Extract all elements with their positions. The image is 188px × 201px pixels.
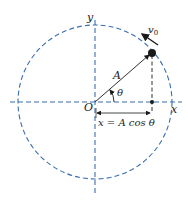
y-axis-label: y [86,11,94,24]
radius-label: A [112,69,121,82]
angle-arc [110,90,114,102]
velocity-label: v0 [148,24,158,37]
velocity-subscript: 0 [154,29,158,37]
x-axis-label: x [171,103,178,116]
circle-projection-diagram: y x O A θ v0 x = A cos θ [0,0,188,201]
diagram-canvas: y x O A θ v0 x = A cos θ [0,0,188,201]
projection-dot [150,100,154,104]
projection-formula-label: x = A cos θ [98,117,155,128]
particle-dot [148,49,156,57]
angle-label: θ [117,87,123,98]
origin-label: O [84,101,93,114]
